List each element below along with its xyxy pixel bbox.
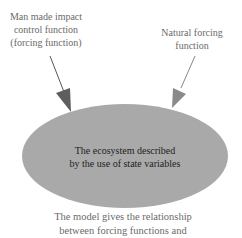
caption-line: between forcing functions and — [20, 224, 226, 238]
man-made-arrow — [50, 56, 71, 112]
man-made-impact-label: Man made impact control function (forcin… — [2, 10, 90, 49]
label-line: Man made impact — [2, 10, 90, 23]
label-line: control function — [2, 23, 90, 36]
natural-forcing-arrow — [172, 56, 195, 108]
ecosystem-text: The ecosystem described by the use of st… — [40, 144, 210, 170]
label-line: function — [150, 39, 234, 52]
label-line: (forcing function) — [2, 36, 90, 49]
caption-text: The model gives the relationship between… — [20, 210, 226, 238]
ecosystem-line: The ecosystem described — [40, 144, 210, 157]
natural-forcing-label: Natural forcing function — [150, 26, 234, 52]
ecosystem-line: by the use of state variables — [40, 157, 210, 170]
label-line: Natural forcing — [150, 26, 234, 39]
caption-line: The model gives the relationship — [20, 210, 226, 224]
